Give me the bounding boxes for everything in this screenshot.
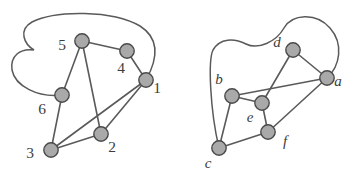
- vertex-1[interactable]: [139, 73, 153, 87]
- vertex-d[interactable]: [286, 43, 300, 57]
- vertex-label-a: a: [334, 73, 342, 89]
- vertex-f[interactable]: [261, 125, 275, 139]
- vertex-b[interactable]: [225, 89, 239, 103]
- vertex-label-2: 2: [108, 138, 116, 155]
- vertex-label-d: d: [273, 34, 281, 50]
- vertex-a[interactable]: [320, 71, 334, 85]
- edge-6-3: [51, 95, 62, 150]
- vertex-2[interactable]: [94, 127, 108, 141]
- vertex-3[interactable]: [44, 143, 58, 157]
- vertex-label-4: 4: [117, 59, 125, 76]
- edge-b-a: [232, 78, 327, 96]
- vertex-label-5: 5: [58, 36, 66, 53]
- vertex-5[interactable]: [75, 34, 89, 48]
- vertex-4[interactable]: [120, 44, 134, 58]
- edge-f-a: [268, 78, 327, 132]
- vertex-e[interactable]: [255, 96, 269, 110]
- vertex-label-6: 6: [38, 100, 46, 117]
- edge-b-c: [219, 96, 232, 148]
- vertex-label-3: 3: [26, 144, 34, 161]
- graph-canvas: 5 4 1 6 2 3: [0, 0, 347, 175]
- vertex-label-c: c: [205, 155, 212, 171]
- edge-2-1: [101, 80, 146, 134]
- vertex-label-f: f: [283, 133, 289, 149]
- edge-d-e: [262, 50, 293, 103]
- right-graph: d a b e f c: [205, 17, 342, 171]
- vertex-label-e: e: [247, 109, 254, 125]
- vertex-6[interactable]: [55, 88, 69, 102]
- vertex-label-b: b: [215, 71, 223, 87]
- left-graph: 5 4 1 6 2 3: [12, 13, 161, 161]
- graph-figure: 5 4 1 6 2 3: [0, 0, 347, 175]
- vertex-label-1: 1: [153, 79, 161, 96]
- vertex-c[interactable]: [212, 141, 226, 155]
